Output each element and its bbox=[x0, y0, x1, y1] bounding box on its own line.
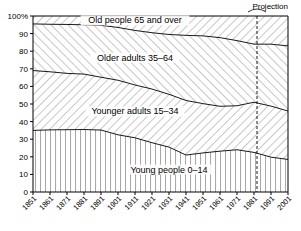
x-tick-label: 1961 bbox=[207, 194, 225, 212]
y-tick-label: 90 bbox=[19, 30, 28, 39]
x-tick-label: 1941 bbox=[173, 194, 191, 212]
y-axis: 0102030405060708090100% bbox=[8, 12, 33, 197]
band-label: Young people 0–14 bbox=[130, 165, 207, 175]
band-label-group: Old people 65 and over bbox=[81, 15, 190, 25]
x-tick-label: 1891 bbox=[88, 194, 106, 212]
band-label: Old people 65 and over bbox=[88, 15, 182, 25]
y-tick-label: 20 bbox=[19, 153, 28, 162]
y-tick-label: 50 bbox=[19, 100, 28, 109]
y-tick-label: 80 bbox=[19, 47, 28, 56]
x-axis: 1851186118711881189119011911192119311941… bbox=[20, 192, 293, 212]
x-tick-label: 1931 bbox=[156, 194, 174, 212]
x-tick-label: 1971 bbox=[224, 194, 242, 212]
x-tick-label: 1881 bbox=[71, 194, 89, 212]
y-tick-label: 60 bbox=[19, 82, 28, 91]
x-tick-label: 1921 bbox=[139, 194, 157, 212]
x-tick-label: 1911 bbox=[123, 194, 141, 212]
y-tick-label: 10 bbox=[19, 170, 28, 179]
x-tick-label: 1991 bbox=[258, 194, 276, 212]
y-tick-label: 70 bbox=[19, 65, 28, 74]
band-label: Younger adults 15–34 bbox=[91, 106, 178, 116]
x-tick-label: 1871 bbox=[54, 194, 72, 212]
band-label-group: Young people 0–14 bbox=[127, 165, 211, 175]
y-tick-label: 30 bbox=[19, 135, 28, 144]
projection-label: Projection bbox=[252, 2, 288, 11]
x-tick-label: 1981 bbox=[241, 194, 259, 212]
y-tick-label: 40 bbox=[19, 118, 28, 127]
chart-canvas: Projection 0102030405060708090100% 18511… bbox=[0, 0, 301, 231]
y-tick-label: 100% bbox=[8, 12, 28, 21]
population-age-structure-chart: Projection 0102030405060708090100% 18511… bbox=[0, 0, 301, 231]
band-label-group: Younger adults 15–34 bbox=[86, 106, 185, 116]
y-tick-label: 0 bbox=[24, 188, 29, 197]
x-tick-label: 1901 bbox=[105, 194, 123, 212]
x-tick-label: 2001 bbox=[275, 194, 293, 212]
band-label: Older adults 35–64 bbox=[97, 53, 173, 63]
band-label-group: Older adults 35–64 bbox=[90, 53, 179, 63]
x-tick-label: 1861 bbox=[37, 194, 55, 212]
x-tick-label: 1951 bbox=[190, 194, 208, 212]
